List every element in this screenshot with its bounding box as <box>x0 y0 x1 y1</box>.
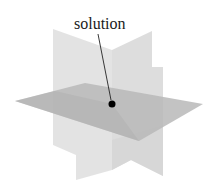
solution-point <box>109 101 116 108</box>
planes-diagram: solution <box>0 0 214 196</box>
solution-label: solution <box>74 15 126 32</box>
